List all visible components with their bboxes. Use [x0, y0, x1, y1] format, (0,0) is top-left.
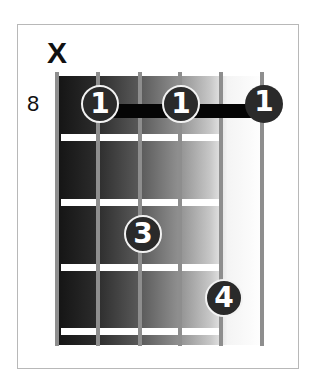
start-fret-number: 8 — [22, 92, 44, 116]
fret-line-3 — [61, 264, 223, 271]
finger-dot: 4 — [205, 279, 243, 317]
fret-line-1 — [61, 134, 223, 141]
finger-dot: 3 — [124, 215, 162, 253]
fret-line-4 — [61, 328, 223, 335]
finger-dot: 1 — [81, 85, 119, 123]
string-6 — [55, 72, 59, 346]
muted-string-marker: X — [46, 38, 68, 68]
finger-dot: 1 — [162, 85, 200, 123]
fret-line-2 — [61, 199, 223, 206]
finger-dot: 1 — [245, 85, 283, 123]
